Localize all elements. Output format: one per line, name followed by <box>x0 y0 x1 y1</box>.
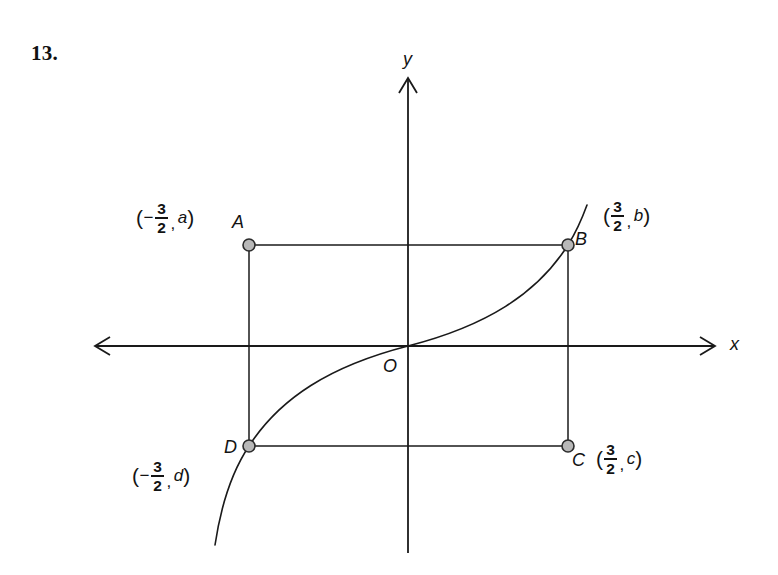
fraction-denominator: 2 <box>155 219 168 235</box>
open-paren: ( <box>136 207 143 228</box>
coordinate-variable: d <box>173 467 183 484</box>
close-paren: ) <box>183 465 190 486</box>
point-marker-d <box>243 440 255 452</box>
coordinate-label-d: ( − 3 2 , d ) <box>132 459 190 494</box>
point-label-d: D <box>224 438 237 456</box>
point-marker-a <box>243 239 255 251</box>
y-axis <box>399 78 417 553</box>
fraction-numerator: 3 <box>604 442 617 458</box>
comma: , <box>165 473 173 490</box>
coordinate-variable: a <box>177 209 187 226</box>
fraction-numerator: 3 <box>155 201 168 217</box>
close-paren: ) <box>635 448 642 469</box>
point-label-a: A <box>232 213 244 231</box>
close-paren: ) <box>187 207 194 228</box>
fraction-three-halves: 3 2 <box>611 199 624 234</box>
coordinate-label-c: ( 3 2 , c ) <box>596 442 642 477</box>
open-paren: ( <box>132 465 139 486</box>
comma: , <box>625 213 633 230</box>
fraction-three-halves: 3 2 <box>151 459 164 494</box>
point-label-b: B <box>575 230 587 248</box>
y-axis-label: y <box>403 50 412 68</box>
fraction-denominator: 2 <box>611 217 624 233</box>
point-label-c: C <box>572 451 585 469</box>
origin-label: O <box>383 357 397 375</box>
figure-root: 13. y x O A <box>0 0 778 575</box>
coordinate-variable: c <box>626 450 636 467</box>
coordinate-label-a: ( − 3 2 , a ) <box>136 201 194 236</box>
comma: , <box>618 456 626 473</box>
open-paren: ( <box>603 205 610 226</box>
coordinate-diagram <box>0 0 778 575</box>
minus-sign: − <box>143 209 154 226</box>
x-axis-label: x <box>730 335 739 353</box>
fraction-three-halves: 3 2 <box>155 201 168 236</box>
fraction-denominator: 2 <box>604 460 617 476</box>
close-paren: ) <box>643 205 650 226</box>
fraction-denominator: 2 <box>151 477 164 493</box>
coordinate-variable: b <box>633 207 643 224</box>
fraction-three-halves: 3 2 <box>604 442 617 477</box>
coordinate-label-b: ( 3 2 , b ) <box>603 199 650 234</box>
minus-sign: − <box>139 467 150 484</box>
fraction-numerator: 3 <box>611 199 624 215</box>
cubic-curve <box>215 205 587 545</box>
fraction-numerator: 3 <box>151 459 164 475</box>
open-paren: ( <box>596 448 603 469</box>
point-marker-b <box>562 239 574 251</box>
comma: , <box>169 215 177 232</box>
